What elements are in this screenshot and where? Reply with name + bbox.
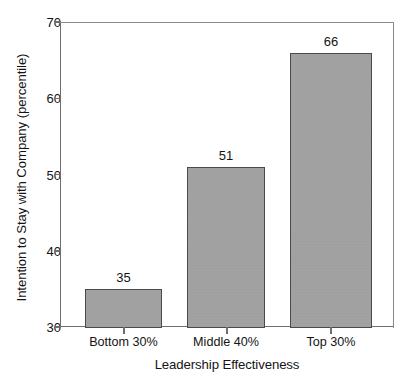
- bar-bottom-30[interactable]: [85, 289, 162, 329]
- x-tick-mark-top-30: [330, 327, 332, 334]
- plot-frame-right-border: [393, 22, 394, 328]
- x-tick-mark-middle-40: [226, 327, 228, 334]
- bar-value-label-bottom-30: 35: [64, 270, 184, 285]
- x-tick-mark-bottom-30: [123, 327, 125, 334]
- bar-value-label-middle-40: 51: [166, 148, 286, 163]
- plot-frame-top-border: [60, 22, 394, 23]
- bar-middle-40[interactable]: [187, 167, 265, 329]
- bar-value-label-top-30: 66: [271, 34, 391, 49]
- x-tick-label-top-30: Top 30%: [266, 335, 396, 349]
- bar-top-30[interactable]: [290, 53, 372, 329]
- bar-chart-figure: Intention to Stay with Company (percenti…: [0, 0, 413, 380]
- x-axis-title: Leadership Effectiveness: [60, 357, 394, 372]
